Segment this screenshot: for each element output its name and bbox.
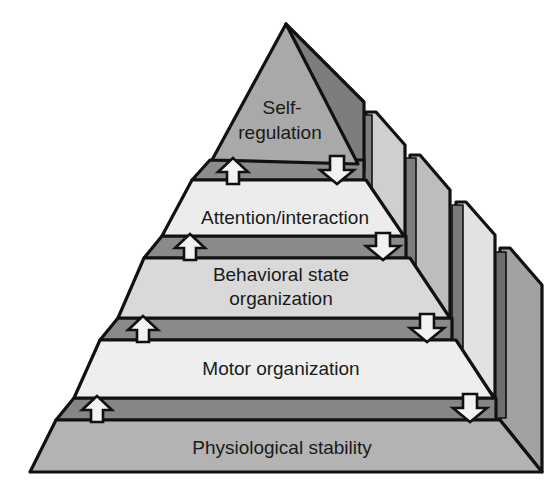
tier-label-attention-interaction: Attention/interaction <box>201 207 369 228</box>
tier-label-self-regulation-line2: regulation <box>238 122 321 143</box>
pyramid-diagram: Self- regulation Attention/interaction B… <box>0 0 554 491</box>
tier-label-motor-organization: Motor organization <box>202 358 359 379</box>
tier-label-self-regulation-line1: Self- <box>262 97 301 118</box>
tier-label-behavioral-state-line2: organization <box>229 288 333 309</box>
tier-label-behavioral-state-line1: Behavioral state <box>213 264 349 285</box>
tier-label-physiological-stability: Physiological stability <box>192 437 372 458</box>
band-4 <box>56 398 496 420</box>
